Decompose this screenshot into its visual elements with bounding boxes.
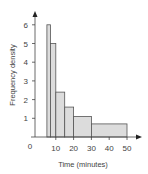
x-tick-label: 20 — [69, 144, 78, 153]
histogram-bar — [74, 116, 92, 137]
y-tick-label: 5 — [24, 40, 29, 49]
histogram-chart: 12345610203040500Time (minutes)Frequency… — [0, 0, 148, 174]
y-tick-label: 1 — [24, 114, 29, 123]
y-axis-title: Frequency density — [8, 44, 17, 106]
origin-label: 0 — [28, 142, 33, 151]
x-tick-label: 40 — [105, 144, 114, 153]
axis-labels: 12345610203040500Time (minutes)Frequency… — [8, 21, 132, 169]
y-tick-label: 3 — [24, 77, 29, 86]
x-axis-arrow-icon — [136, 135, 142, 140]
histogram-bar — [50, 44, 55, 138]
histogram-bar — [47, 25, 51, 137]
histogram-bar — [56, 92, 65, 137]
x-tick-label: 10 — [51, 144, 60, 153]
chart-svg: 12345610203040500Time (minutes)Frequency… — [0, 0, 148, 174]
y-tick-label: 2 — [24, 96, 29, 105]
y-axis-arrow-icon — [33, 11, 38, 17]
y-tick-label: 6 — [24, 21, 29, 30]
y-tick-label: 4 — [24, 58, 29, 67]
x-tick-label: 50 — [123, 144, 132, 153]
x-axis-title: Time (minutes) — [58, 160, 108, 169]
histogram-bar — [91, 124, 127, 137]
histogram-bar — [65, 107, 74, 137]
x-tick-label: 30 — [87, 144, 96, 153]
histogram-bars — [47, 25, 127, 137]
